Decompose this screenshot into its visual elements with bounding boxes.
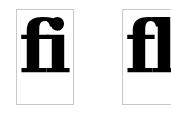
ligature-box-fl: fl (122, 9, 171, 105)
ligature-glyph-fl: fl (125, 9, 171, 88)
ligature-box-fi: fi (16, 9, 74, 105)
ligature-glyph-fi: fi (19, 9, 65, 88)
